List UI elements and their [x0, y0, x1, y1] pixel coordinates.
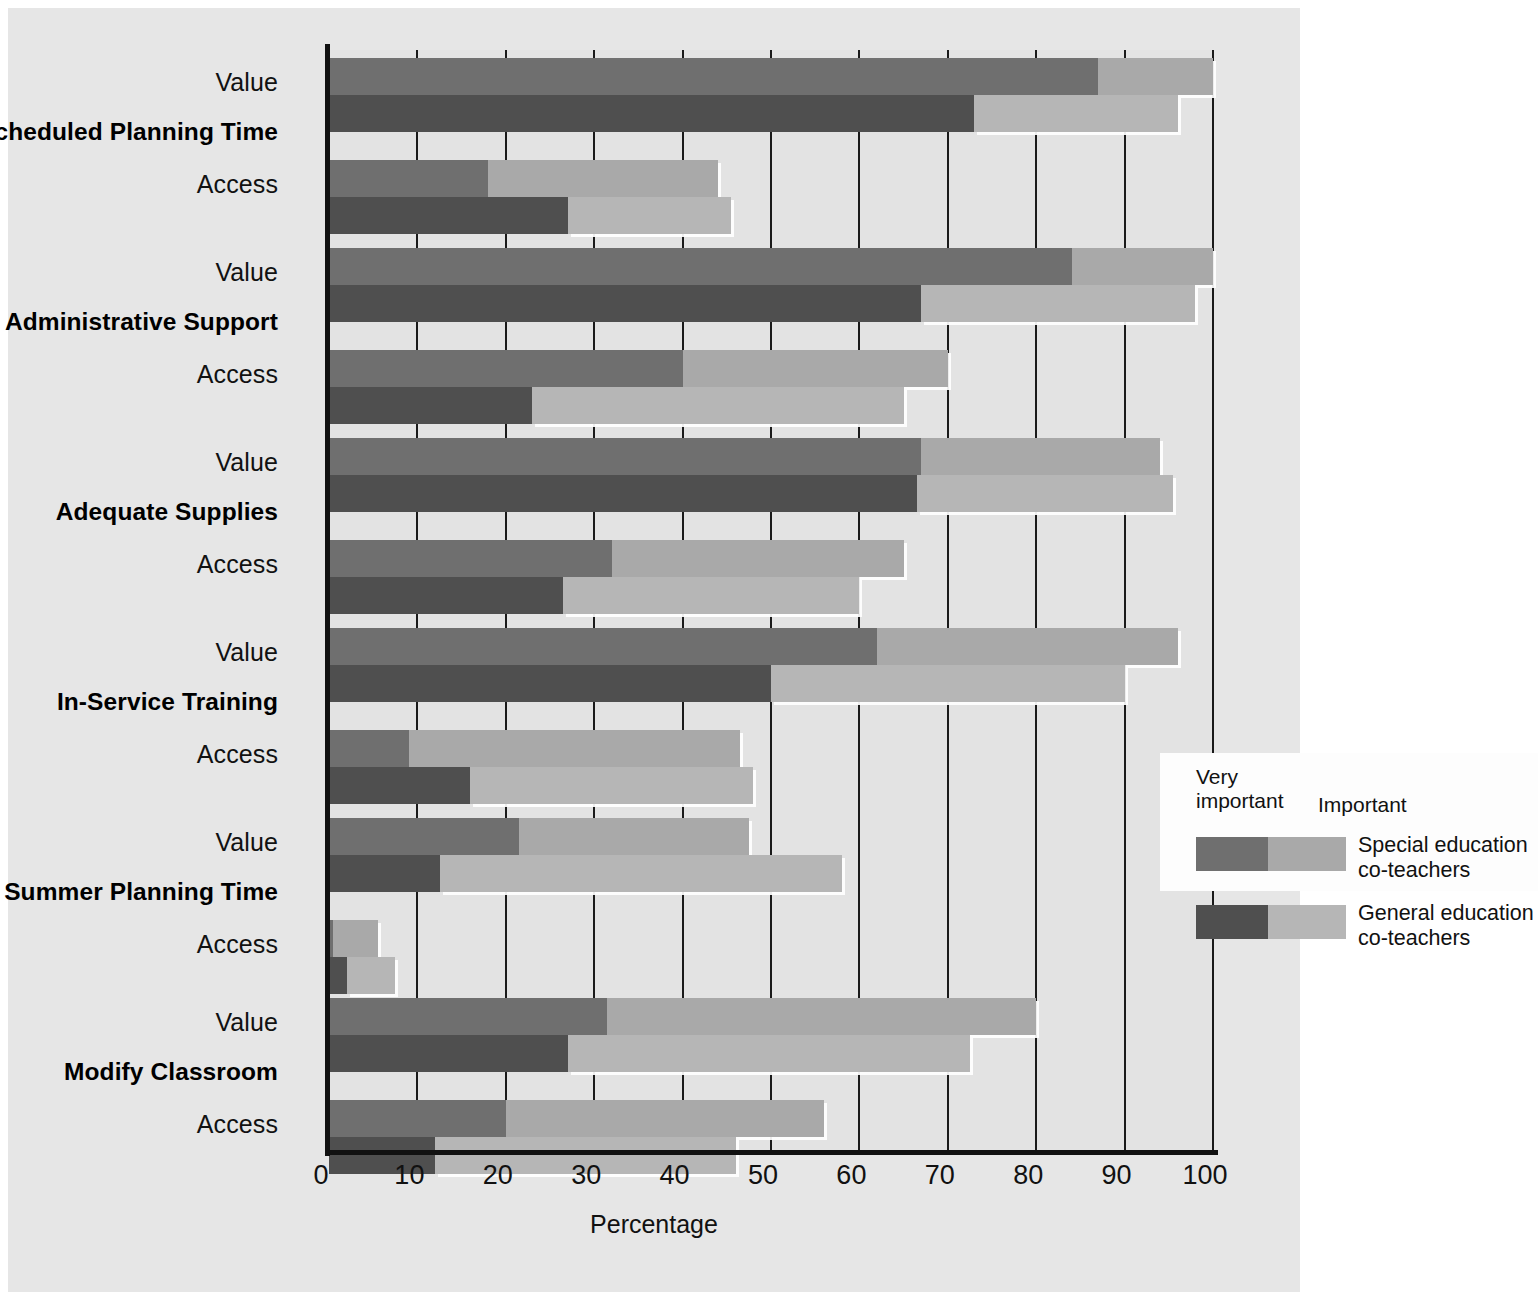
- legend-label-general-line1: General education: [1358, 901, 1534, 926]
- legend-label-general-line2: co-teachers: [1358, 926, 1534, 951]
- row-label-access-5: Access: [18, 930, 278, 959]
- row-label-value-4: Value: [18, 638, 278, 667]
- bar-segment-important: [771, 665, 1125, 702]
- bar-segment-important: [347, 957, 396, 994]
- bar-segment-important: [532, 387, 903, 424]
- category-label-1: Scheduled Planning Time: [0, 118, 278, 146]
- figure-plate: ValueAccessScheduled Planning TimeValueA…: [8, 8, 1300, 1292]
- bar-segment-very-important: [329, 58, 1098, 95]
- bar-segment-very-important: [329, 665, 771, 702]
- bar-segment-important: [921, 438, 1160, 475]
- legend-swatch-special-very-important: [1196, 837, 1268, 871]
- legend-header-very-important-line2: important: [1196, 789, 1316, 813]
- x-tick-40: 40: [645, 1160, 705, 1191]
- bar-segment-very-important: [329, 285, 921, 322]
- legend-swatch-general: [1196, 905, 1346, 939]
- x-tick-10: 10: [379, 1160, 439, 1191]
- x-tick-90: 90: [1087, 1160, 1147, 1191]
- row-label-value-5: Value: [18, 828, 278, 857]
- bar-segment-important: [917, 475, 1173, 512]
- bar-segment-important: [440, 855, 842, 892]
- bar-segment-very-important: [329, 818, 519, 855]
- category-label-4: In-Service Training: [0, 688, 278, 716]
- bar-segment-very-important: [329, 767, 470, 804]
- gridline-90: [1124, 50, 1126, 1150]
- bar-segment-very-important: [329, 957, 347, 994]
- x-tick-50: 50: [733, 1160, 793, 1191]
- bar-segment-very-important: [329, 197, 568, 234]
- legend-header-very-important: Very important: [1196, 765, 1316, 812]
- bar-segment-very-important: [329, 577, 563, 614]
- bar-segment-very-important: [329, 628, 877, 665]
- bar-segment-very-important: [329, 998, 607, 1035]
- legend-header-very-important-line1: Very: [1196, 765, 1316, 789]
- row-label-access-3: Access: [18, 550, 278, 579]
- bar-segment-important: [568, 1035, 970, 1072]
- bar-segment-important: [519, 818, 749, 855]
- bar-segment-very-important: [329, 387, 532, 424]
- row-label-access-1: Access: [18, 170, 278, 199]
- bar-segment-important: [470, 767, 753, 804]
- category-label-6: Modify Classroom: [0, 1058, 278, 1086]
- x-tick-60: 60: [821, 1160, 881, 1191]
- bar-segment-very-important: [329, 1100, 506, 1137]
- legend-label-special-line1: Special education: [1358, 833, 1528, 858]
- y-axis-line: [325, 44, 330, 1156]
- bar-segment-important: [1072, 248, 1213, 285]
- legend-swatch-special: [1196, 837, 1346, 871]
- bar-segment-important: [612, 540, 904, 577]
- row-label-value-1: Value: [18, 68, 278, 97]
- x-tick-20: 20: [468, 1160, 528, 1191]
- legend: Very important Important Special educati…: [1160, 753, 1538, 891]
- row-label-value-3: Value: [18, 448, 278, 477]
- gridline-100: [1212, 50, 1214, 1150]
- row-label-value-6: Value: [18, 1008, 278, 1037]
- bar-segment-important: [506, 1100, 824, 1137]
- bar-segment-very-important: [329, 350, 683, 387]
- plot-area: [329, 50, 1213, 1150]
- bar-segment-important: [333, 920, 377, 957]
- legend-label-special-line2: co-teachers: [1358, 858, 1528, 883]
- row-label-access-2: Access: [18, 360, 278, 389]
- bar-segment-important: [409, 730, 741, 767]
- x-axis-line: [325, 1150, 1218, 1155]
- bar-segment-important: [974, 95, 1177, 132]
- category-label-5: Summer Planning Time: [0, 878, 278, 906]
- bar-segment-very-important: [329, 160, 488, 197]
- x-tick-80: 80: [998, 1160, 1058, 1191]
- x-axis-label: Percentage: [8, 1210, 1300, 1239]
- row-label-value-2: Value: [18, 258, 278, 287]
- x-tick-70: 70: [910, 1160, 970, 1191]
- bar-segment-important: [563, 577, 859, 614]
- legend-header-important: Important: [1318, 793, 1407, 817]
- legend-swatch-special-important: [1268, 837, 1346, 871]
- bar-segment-important: [683, 350, 948, 387]
- bar-segment-very-important: [329, 475, 917, 512]
- bar-segment-very-important: [329, 248, 1072, 285]
- gridline-80: [1035, 50, 1037, 1150]
- bar-segment-very-important: [329, 95, 974, 132]
- x-tick-0: 0: [291, 1160, 351, 1191]
- category-label-3: Adequate Supplies: [0, 498, 278, 526]
- bar-segment-very-important: [329, 855, 440, 892]
- gridline-70: [947, 50, 949, 1150]
- legend-swatch-general-very-important: [1196, 905, 1268, 939]
- bar-segment-important: [607, 998, 1036, 1035]
- bar-segment-very-important: [329, 730, 409, 767]
- bar-segment-very-important: [329, 438, 921, 475]
- row-label-access-4: Access: [18, 740, 278, 769]
- category-label-2: Administrative Support: [0, 308, 278, 336]
- x-tick-30: 30: [556, 1160, 616, 1191]
- bar-segment-important: [877, 628, 1178, 665]
- bar-segment-very-important: [329, 540, 612, 577]
- bar-segment-important: [921, 285, 1195, 322]
- row-label-access-6: Access: [18, 1110, 278, 1139]
- bar-segment-important: [488, 160, 718, 197]
- x-tick-100: 100: [1175, 1160, 1235, 1191]
- bar-segment-important: [568, 197, 732, 234]
- bar-segment-very-important: [329, 1035, 568, 1072]
- bar-segment-important: [1098, 58, 1213, 95]
- legend-label-special: Special education co-teachers: [1358, 833, 1528, 882]
- legend-label-general: General education co-teachers: [1358, 901, 1534, 950]
